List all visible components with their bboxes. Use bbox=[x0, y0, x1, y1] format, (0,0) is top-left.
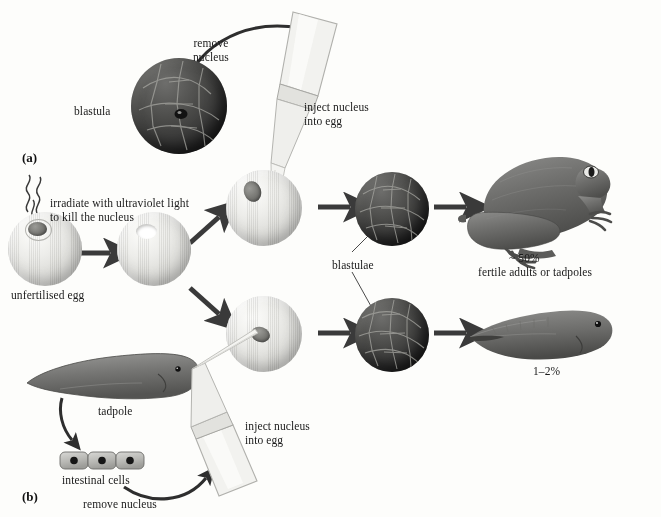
nuclear-transfer-figure: (a) (b) remove nucleus blastula inject n… bbox=[0, 0, 661, 517]
irradiate-uv-label: irradiate with ultraviolet light to kill… bbox=[50, 196, 189, 224]
inject-nucleus-label-top: inject nucleus into egg bbox=[304, 100, 369, 128]
panel-label-a: (a) bbox=[22, 150, 37, 166]
remove-nucleus-label-top: remove nucleus bbox=[193, 36, 229, 64]
panel-label-b: (b) bbox=[22, 489, 38, 505]
frog-outcome-percent: ~ 50% bbox=[509, 251, 540, 265]
blastulae-label: blastulae bbox=[332, 258, 374, 272]
remove-nucleus-label-bottom: remove nucleus bbox=[83, 497, 157, 511]
frog-outcome-description: fertile adults or tadpoles bbox=[478, 265, 592, 279]
inject-nucleus-label-bottom: inject nucleus into egg bbox=[245, 419, 310, 447]
intestinal-cells-label: intestinal cells bbox=[62, 473, 130, 487]
pipette-bottom-vector bbox=[0, 0, 661, 517]
tadpole-label: tadpole bbox=[98, 404, 133, 418]
unfertilised-egg-label: unfertilised egg bbox=[11, 288, 84, 302]
blastula-label: blastula bbox=[74, 104, 111, 118]
tadpole-outcome-percent: 1–2% bbox=[533, 364, 560, 378]
